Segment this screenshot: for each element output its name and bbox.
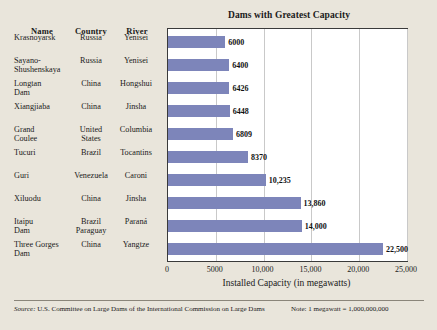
cell-name: Three GorgesDam	[14, 240, 72, 258]
cell-name: ItaipuDam	[14, 217, 72, 235]
bar-value-label: 10,235	[269, 176, 291, 185]
bar	[168, 59, 229, 71]
cell-name: Guri	[14, 171, 72, 180]
unit-note: Note: 1 megawatt = 1,000,000,000	[291, 305, 388, 313]
cell-country: Russia	[66, 33, 116, 42]
bar-value-label: 6426	[232, 84, 248, 93]
cell-country: Venezuela	[66, 171, 116, 180]
cell-name: Tucuri	[14, 148, 72, 157]
bar-value-label: 13,860	[304, 199, 326, 208]
cell-name: LongtanDam	[14, 79, 72, 97]
bar-value-label: 8370	[251, 153, 267, 162]
bar-value-label: 6400	[232, 61, 248, 70]
x-axis-label: Installed Capacity (in megawatts)	[166, 278, 407, 288]
cell-country: Russia	[66, 56, 116, 65]
cell-river: Jinsha	[112, 194, 160, 203]
bar	[168, 243, 383, 255]
cell-river: Yenisei	[112, 33, 160, 42]
x-tick-label: 5000	[195, 265, 235, 274]
bar-value-label: 22,500	[386, 245, 408, 254]
bar	[168, 151, 248, 163]
cell-country: China	[66, 102, 116, 111]
gridline	[359, 29, 360, 261]
x-tick-label: 15,000	[290, 265, 330, 274]
cell-river: Caroni	[112, 171, 160, 180]
dams-table: Name Country River KrasnoyarskRussiaYeni…	[10, 26, 162, 278]
gridline	[407, 29, 408, 261]
bar	[168, 197, 301, 209]
cell-river: Columbia	[112, 125, 160, 134]
x-tick-label: 20,000	[338, 265, 378, 274]
plot-area	[167, 28, 408, 262]
cell-country: China	[66, 240, 116, 249]
bar	[168, 36, 225, 48]
bar	[168, 105, 230, 117]
dams-capacity-figure: Name Country River KrasnoyarskRussiaYeni…	[0, 0, 437, 330]
bar-value-label: 6809	[236, 130, 252, 139]
source-note: Source: U.S. Committee on Large Dams of …	[14, 305, 265, 313]
bar	[168, 128, 233, 140]
cell-country: China	[66, 79, 116, 88]
cell-country: Brazil	[66, 148, 116, 157]
cell-name: Xiluodu	[14, 194, 72, 203]
cell-river: Yenisei	[112, 56, 160, 65]
cell-name: Sayano-Shushenskaya	[14, 56, 72, 74]
bar-value-label: 6448	[233, 107, 249, 116]
cell-country: China	[66, 194, 116, 203]
bar	[168, 174, 266, 186]
bar	[168, 220, 302, 232]
bar	[168, 82, 229, 94]
cell-river: Yangtze	[112, 240, 160, 249]
x-tick-label: 0	[147, 265, 187, 274]
cell-name: Xiangjiaba	[14, 102, 72, 111]
bar-value-label: 6000	[228, 38, 244, 47]
cell-river: Paraná	[112, 217, 160, 226]
x-tick-label: 25,000	[386, 265, 426, 274]
cell-country: UnitedStates	[66, 125, 116, 143]
bar-value-label: 14,000	[305, 222, 327, 231]
cell-name: Krasnoyarsk	[14, 33, 72, 42]
cell-river: Hongshui	[112, 79, 160, 88]
cell-name: GrandCoulee	[14, 125, 72, 143]
x-tick-label: 10,000	[243, 265, 283, 274]
bar-chart: Dams with Greatest Capacity 0500010,0001…	[166, 8, 428, 298]
cell-river: Jinsha	[112, 102, 160, 111]
cell-river: Tocantins	[112, 148, 160, 157]
footer-divider	[14, 300, 424, 301]
chart-title: Dams with Greatest Capacity	[166, 10, 412, 20]
source-prefix: Source:	[14, 305, 36, 313]
cell-country: BrazilParaguay	[66, 217, 116, 235]
source-body: U.S. Committee on Large Dams of the Inte…	[36, 305, 265, 313]
